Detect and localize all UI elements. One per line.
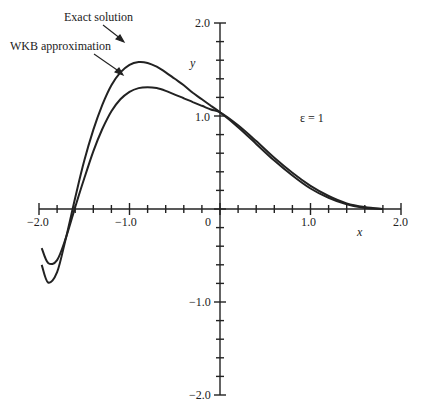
wkb-approximation-label: WKB approximation [10, 39, 111, 54]
x-tick-minus1: −1.0 [115, 215, 137, 230]
y-tick-minus1: −1.0 [189, 295, 211, 310]
y-axis-label: y [190, 56, 195, 71]
y-tick-1: 1.0 [195, 110, 210, 125]
x-tick-minus2: −2.0 [27, 215, 49, 230]
y-tick-2: 2.0 [195, 16, 210, 31]
x-tick-0: 0 [205, 215, 211, 230]
x-tick-1: 1.0 [301, 215, 316, 230]
exact-solution-label: Exact solution [64, 10, 133, 25]
exact-solution-curve [42, 62, 383, 283]
wkb-arrow [94, 54, 120, 72]
y-tick-minus2: −2.0 [189, 388, 211, 403]
chart-plot-area [0, 0, 424, 415]
axes [39, 23, 401, 395]
wkb-approximation-curve [42, 87, 383, 264]
curves [42, 62, 383, 283]
epsilon-annotation: ε = 1 [300, 111, 324, 126]
x-axis-label: x [357, 225, 362, 240]
x-tick-2: 2.0 [393, 215, 408, 230]
